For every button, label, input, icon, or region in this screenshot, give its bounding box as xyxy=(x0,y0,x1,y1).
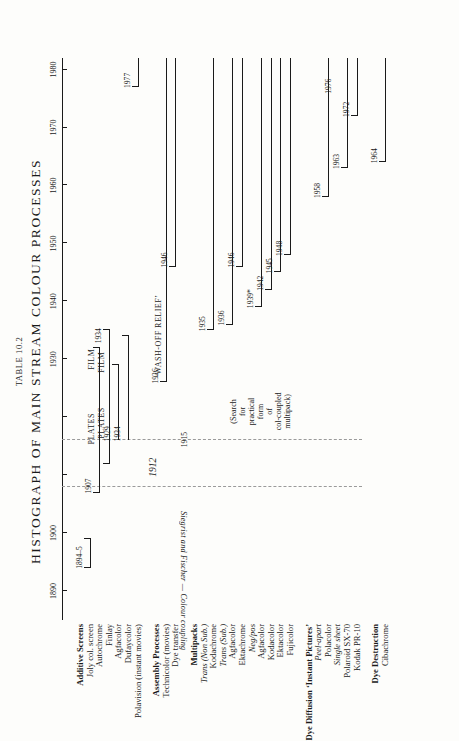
era-band-line xyxy=(62,485,362,487)
timeline-bar-kodak-pr-10[interactable] xyxy=(357,58,358,116)
group-header-multipacks: Multipacks xyxy=(190,624,199,666)
axis-tick xyxy=(62,127,67,128)
axis-tick xyxy=(62,184,67,185)
axis-tick-label: 1940 xyxy=(49,293,58,309)
row-label-trans-sub-: Trans (Sub.) xyxy=(219,624,228,667)
bar-start-year: 1907 xyxy=(84,478,93,493)
group-header-dye-destruction: Dye Destruction xyxy=(371,624,380,683)
standalone-year-marker: 1915 xyxy=(180,432,189,447)
bar-segment-label: FILM xyxy=(87,349,96,370)
axis-tick-label: 1950 xyxy=(49,235,58,251)
timeline-bar-fujicolor[interactable] xyxy=(290,58,291,255)
bar-start-cap xyxy=(103,463,110,464)
bar-segment-label: PLATES xyxy=(87,413,96,444)
axis-tick xyxy=(62,416,67,417)
row-label-agfacolor: Agfacolor xyxy=(228,624,237,659)
row-label-finlay: Finlay xyxy=(105,624,114,646)
bar-start-year: 1977 xyxy=(123,73,132,88)
bar-start-cap xyxy=(274,271,281,272)
row-label-single-sheet: Single sheet xyxy=(333,624,342,665)
group-header-assembly-processes: Assembly Processes xyxy=(152,624,161,696)
axis-tick xyxy=(62,69,67,70)
bar-start-cap xyxy=(265,289,272,290)
bar-end-cap xyxy=(84,538,91,539)
year-axis-line xyxy=(62,58,63,620)
bar-start-year: 1963 xyxy=(332,154,341,169)
row-label-agfacolor: Agfacolor xyxy=(114,624,123,659)
bar-start-cap xyxy=(93,492,100,493)
bar-start-cap xyxy=(207,329,214,330)
bar-start-year: 1942 xyxy=(256,276,265,291)
row-label-ektacolor: Ektacolor xyxy=(276,624,285,657)
row-label-kodachrome: Kodachrome xyxy=(209,624,218,668)
timeline-bar-cibachrome[interactable] xyxy=(385,58,386,162)
bar-start-year: 1964 xyxy=(370,148,379,163)
standalone-year-marker: 1976 xyxy=(324,79,333,94)
row-label-agfacolor: Agfacolor xyxy=(257,624,266,659)
bar-start-cap xyxy=(84,567,91,568)
bar-start-year: 1936 xyxy=(217,310,226,325)
timeline-bar-ektachrome[interactable] xyxy=(242,58,243,267)
axis-tick xyxy=(62,532,67,533)
bar-start-year: 1945 xyxy=(265,258,274,273)
era-band-year: 1912 xyxy=(148,458,158,477)
search-note: (Search for practical form of col-couple… xyxy=(230,393,293,431)
timeline-bar-dye-transfer[interactable] xyxy=(175,58,176,267)
row-label-technicolor-movies-: Technicolor (movies) xyxy=(162,624,171,698)
timeline-bar-dufaycolor[interactable] xyxy=(128,336,129,440)
timeline-bar-joly-col-screen[interactable] xyxy=(90,539,91,568)
row-label-fujicolor: Fujicolor xyxy=(286,624,295,656)
bar-start-cap xyxy=(341,167,348,168)
axis-tick xyxy=(62,242,67,243)
row-label-autochrome: Autochrome xyxy=(95,624,104,667)
timeline-bar-finlay[interactable] xyxy=(109,330,110,463)
row-label-neg-pos: Neg/pos xyxy=(248,624,257,652)
timeline-plot-area: 189019001930194019501960197019801912Sieg… xyxy=(62,58,360,620)
row-label-cibachrome: Cibachrome xyxy=(381,624,390,666)
row-label-peel-apart: Peel-apart xyxy=(314,624,323,661)
bar-start-year: 1894–5 xyxy=(75,546,84,569)
bar-start-year: 1934 xyxy=(113,426,122,441)
page-title: HISTOGRAPH OF MAIN STREAM COLOUR PROCESS… xyxy=(28,0,44,723)
bar-start-year: 1972 xyxy=(342,102,351,117)
bar-end-cap xyxy=(93,347,100,348)
bar-start-cap xyxy=(255,306,262,307)
timeline-bar-technicolor-movies-[interactable] xyxy=(166,58,167,382)
bar-start-year: 1946 xyxy=(160,252,169,267)
bar-end-year: 1934 xyxy=(94,328,103,343)
row-label-ektachrome: Ektachrome xyxy=(238,624,247,666)
timeline-bar-agfacolor[interactable] xyxy=(261,58,262,307)
bar-end-cap xyxy=(103,329,110,330)
row-label-kodacolor: Kodacolor xyxy=(267,624,276,660)
timeline-bar-polavision-instant-movies-[interactable] xyxy=(138,58,139,87)
bar-start-cap xyxy=(379,161,386,162)
bar-start-cap xyxy=(160,381,167,382)
bar-start-cap xyxy=(284,254,291,255)
timeline-bar-kodacolor[interactable] xyxy=(271,58,272,290)
bar-start-year: 1958 xyxy=(313,183,322,198)
bar-start-cap xyxy=(351,115,358,116)
axis-tick-label: 1900 xyxy=(49,525,58,541)
bar-segment-label: ‘WASH-OFF RELIEF’ xyxy=(154,295,163,378)
bar-start-year: 1948 xyxy=(275,241,284,256)
era-band-label: Siegrist and Fischer — Colour coupling xyxy=(179,511,188,650)
bar-start-year: 1946 xyxy=(227,252,236,267)
axis-tick xyxy=(62,474,67,475)
timeline-bar-agfacolor[interactable] xyxy=(232,58,233,325)
row-label-kodak-pr-10: Kodak PR-10 xyxy=(353,624,362,671)
bar-end-cap xyxy=(112,364,119,365)
bar-start-year: 1939* xyxy=(246,289,255,308)
row-label-joly-col-screen: Joly col. screen xyxy=(86,624,95,677)
bar-start-cap xyxy=(322,196,329,197)
bar-segment-label: FILM xyxy=(97,352,106,373)
timeline-bar-kodachrome[interactable] xyxy=(213,58,214,330)
bar-start-year: 1929 xyxy=(103,426,112,441)
axis-tick-label: 1960 xyxy=(49,177,58,193)
axis-tick-label: 1930 xyxy=(49,351,58,367)
group-header-dye-diffusion-instant-pictures-: Dye Diffusion ‘Instant Pictures’ xyxy=(305,624,314,741)
bar-start-cap xyxy=(169,266,176,267)
group-header-additive-screens: Additive Screens xyxy=(76,624,85,686)
bar-start-year: 1935 xyxy=(198,316,207,331)
